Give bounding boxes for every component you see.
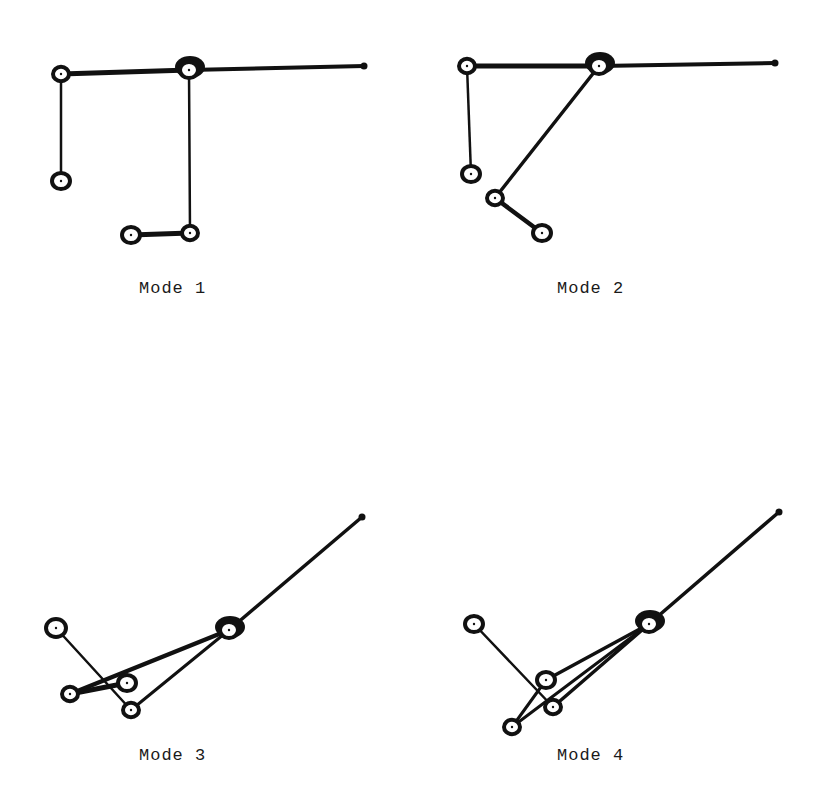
member-line — [546, 624, 649, 680]
joint-center-dot — [494, 197, 496, 199]
joint-center-dot — [55, 627, 57, 629]
mode-3-label: Mode 3 — [139, 746, 206, 765]
joint-center-dot — [541, 232, 543, 234]
joint-center-dot — [130, 234, 132, 236]
joint-center-dot — [60, 73, 62, 75]
member-line — [474, 624, 553, 707]
member-line — [512, 624, 649, 727]
member-line — [229, 517, 362, 630]
joint-center-dot — [511, 726, 513, 728]
joint-center-dot — [466, 65, 468, 67]
joint-center-dot — [648, 623, 650, 625]
joint-center-dot — [188, 69, 190, 71]
tip-node — [772, 60, 779, 67]
mode-1-label: Mode 1 — [139, 279, 206, 298]
joint-center-dot — [189, 232, 191, 234]
member-line — [467, 66, 471, 174]
member-line — [599, 63, 775, 66]
mode-1-panel — [52, 56, 368, 243]
member-line — [131, 630, 229, 710]
joint-center-dot — [60, 180, 62, 182]
joint-center-dot — [598, 65, 600, 67]
mode-4-panel — [465, 509, 783, 735]
member-line — [189, 66, 364, 70]
member-line — [61, 70, 189, 74]
joint-center-dot — [473, 623, 475, 625]
member-line — [70, 630, 229, 694]
mode-2-label: Mode 2 — [557, 279, 624, 298]
mode-shapes-diagram — [0, 0, 822, 801]
mode-3-panel — [46, 514, 366, 718]
joint-center-dot — [69, 693, 71, 695]
mode-2-panel — [459, 52, 779, 241]
member-line — [495, 66, 599, 198]
joint-center-dot — [228, 629, 230, 631]
joint-center-dot — [552, 706, 554, 708]
joint-center-dot — [545, 679, 547, 681]
member-line — [189, 70, 190, 233]
tip-node — [361, 63, 368, 70]
mode-4-label: Mode 4 — [557, 746, 624, 765]
member-line — [649, 512, 779, 624]
joint-center-dot — [470, 173, 472, 175]
joint-center-dot — [126, 682, 128, 684]
tip-node — [776, 509, 783, 516]
tip-node — [359, 514, 366, 521]
joint-center-dot — [130, 709, 132, 711]
